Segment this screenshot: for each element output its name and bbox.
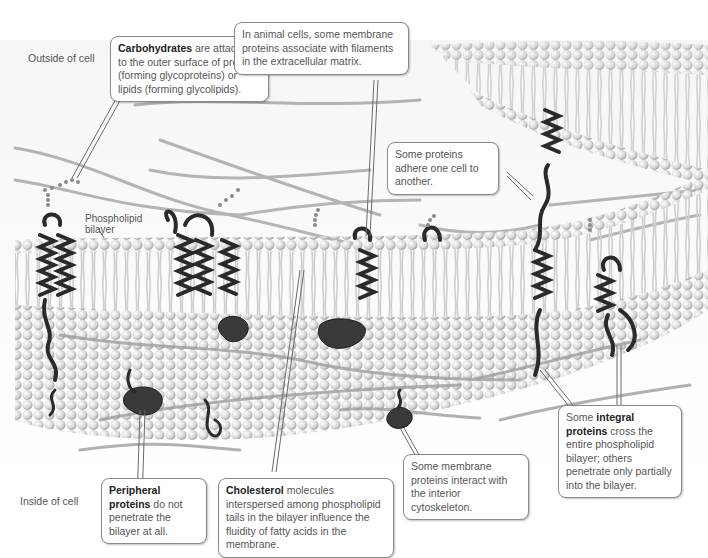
callout-cholesterol: Cholesterol molecules interspersed among… <box>218 478 394 558</box>
callout-adhere-text: Some proteins adhere one cell to another… <box>395 148 478 187</box>
callout-cytoskeleton-text: Some membrane proteins interact with the… <box>411 460 507 513</box>
callout-carbohydrates-term: Carbohydrates <box>118 42 192 54</box>
bilayer-label: Phospholipid bilayer <box>85 213 142 235</box>
callout-integral-proteins: Some integral proteins cross the entire … <box>558 405 682 498</box>
region-label-inside: Inside of cell <box>20 495 78 508</box>
callout-cytoskeleton: Some membrane proteins interact with the… <box>403 454 529 520</box>
callout-ecm-text: In animal cells, some membrane proteins … <box>242 28 393 67</box>
bilayer-label-line1: Phospholipid <box>85 213 142 224</box>
callout-extracellular-matrix: In animal cells, some membrane proteins … <box>234 22 409 75</box>
bilayer-label-line2: bilayer <box>85 224 142 235</box>
callout-cholesterol-term: Cholesterol <box>226 484 284 496</box>
callout-peripheral-proteins: Peripheral proteins do not penetrate the… <box>101 478 207 544</box>
callout-integral-pre: Some <box>566 411 596 423</box>
region-label-outside: Outside of cell <box>28 52 95 65</box>
callout-cell-adhesion: Some proteins adhere one cell to another… <box>387 142 499 195</box>
